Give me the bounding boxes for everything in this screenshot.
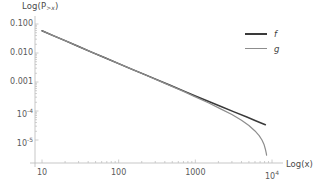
chart-figure: Log(P>x) Log(x) 0.1000.0100.00110-410-5 … <box>0 0 323 193</box>
series-line-g <box>42 31 267 155</box>
plot-canvas <box>0 0 323 193</box>
